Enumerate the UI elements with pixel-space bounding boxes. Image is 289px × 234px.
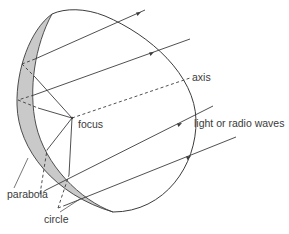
parabola-leader	[14, 158, 28, 188]
dish-shading	[17, 14, 113, 212]
arrowhead-icons	[136, 12, 191, 160]
circle-leader	[60, 199, 80, 212]
incoming-rays	[34, 10, 236, 205]
focus-point	[71, 117, 73, 119]
waves-label: light or radio waves	[194, 118, 284, 129]
circle-label: circle	[44, 214, 69, 225]
parabola-label: parabola	[7, 189, 48, 200]
focus-label: focus	[78, 119, 103, 130]
axis-label: axis	[192, 72, 211, 83]
parabolic-reflector-diagram: axis focus light or radio waves parabola…	[0, 0, 289, 234]
axis-line	[72, 78, 190, 118]
